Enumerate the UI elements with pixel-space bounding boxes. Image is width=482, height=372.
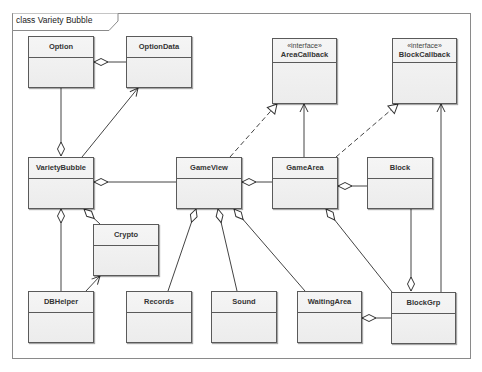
class-sound[interactable]: Sound [211,291,277,343]
stereotype-label: «interface» [287,41,322,50]
class-dbhelper[interactable]: DBHelper [28,291,94,343]
class-name: AreaCallback [281,50,329,60]
class-name: Block [390,163,410,173]
class-name: DBHelper [44,297,78,307]
class-name: GameView [190,163,228,173]
class-name: OptionData [139,42,179,52]
stereotype-label: «interface» [407,41,442,50]
class-waitingarea[interactable]: WaitingArea [297,291,362,343]
edge-dbhelper-crypto [86,276,100,291]
class-optiondata[interactable]: OptionData [126,36,192,88]
class-gameview[interactable]: GameView [176,157,242,209]
class-gamearea[interactable]: GameArea [272,157,338,209]
edge-varietybubble-crypto [84,209,100,224]
edge-gameview-records [168,209,196,291]
interface-areacallback[interactable]: «interface» AreaCallback [272,38,337,104]
class-name: Records [144,297,174,307]
class-option[interactable]: Option [28,36,94,88]
class-name: Option [49,42,73,52]
class-name: GameArea [286,163,324,173]
class-crypto[interactable]: Crypto [93,224,159,276]
edge-gameview-areacallback [230,104,277,157]
edge-gameview-waitingarea [234,209,305,291]
class-records[interactable]: Records [126,291,192,343]
class-name: WaitingArea [308,297,351,307]
class-varietybubble[interactable]: VarietyBubble [28,157,94,209]
edge-varietybubble-optiondata [82,88,138,157]
class-name: VarietyBubble [36,163,86,173]
edge-gamearea-blockcallback [336,104,398,157]
class-blockgrp[interactable]: BlockGrp [391,292,456,344]
class-name: Crypto [114,230,138,240]
class-block[interactable]: Block [367,157,433,209]
class-name: Sound [232,297,255,307]
edge-gameview-sound [218,209,237,291]
edge-gamearea-blockgrp [326,209,392,292]
class-name: BlockCallback [399,50,450,60]
interface-blockcallback[interactable]: «interface» BlockCallback [392,38,457,104]
class-name: BlockGrp [407,298,441,308]
